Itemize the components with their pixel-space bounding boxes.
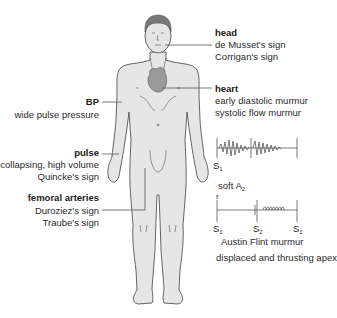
pulse-label-title: pulse bbox=[74, 147, 99, 159]
head-sign-2: Corrigan's sign bbox=[215, 51, 278, 63]
head-label-title: head bbox=[215, 27, 237, 39]
austin-flint-caption: Austin Flint murmur bbox=[221, 236, 303, 248]
head-sign-1: de Musset's sign bbox=[215, 39, 285, 51]
heart-label-title: heart bbox=[215, 83, 238, 95]
bp-label-title: BP bbox=[86, 96, 99, 108]
pulse-sign-1: collapsing, high volume bbox=[0, 159, 99, 171]
femoral-sign-1: Duroziez's sign bbox=[35, 205, 99, 217]
heart-sign-2: systolic flow murmur bbox=[215, 107, 301, 119]
bp-sign-1: wide pulse pressure bbox=[15, 109, 100, 121]
pulse-sign-2: Quincke's sign bbox=[38, 171, 99, 183]
phono1-s1-marker: S1 bbox=[213, 160, 223, 175]
apex-caption: displaced and thrusting apex bbox=[216, 252, 337, 264]
femoral-sign-2: Traube's sign bbox=[43, 217, 99, 229]
femoral-label-title: femoral arteries bbox=[28, 192, 99, 204]
phono2-top-marker: r bbox=[216, 191, 219, 203]
heart-sign-1: early diastolic murmur bbox=[215, 95, 308, 107]
soft-a2-label: soft A2 bbox=[218, 180, 245, 195]
